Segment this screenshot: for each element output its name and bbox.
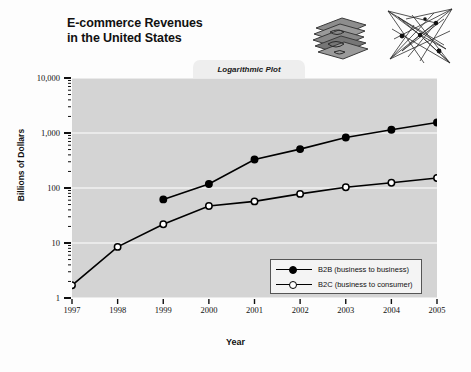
data-point — [251, 198, 257, 204]
data-point — [72, 282, 75, 288]
network-graph-icon — [384, 5, 456, 67]
x-tick-label: 2000 — [189, 305, 229, 315]
legend-swatch-b2c — [276, 279, 312, 290]
x-tick-label: 2001 — [235, 305, 275, 315]
legend: B2B (business to business) B2C (business… — [270, 259, 422, 294]
x-tick-label: 2004 — [371, 305, 411, 315]
data-point — [343, 184, 349, 190]
data-point — [434, 175, 437, 181]
data-point — [206, 181, 212, 187]
stack-of-money-icon — [308, 12, 374, 62]
y-tick-label: 10 — [18, 238, 60, 248]
data-point — [297, 191, 303, 197]
x-tick-label: 2003 — [326, 305, 366, 315]
logarithmic-plot-tab: Logarithmic Plot — [193, 60, 305, 79]
data-point — [251, 156, 257, 162]
legend-swatch-b2b — [276, 264, 312, 275]
x-tick-label: 1998 — [98, 305, 138, 315]
data-point — [206, 203, 212, 209]
data-point — [388, 180, 394, 186]
data-point — [388, 127, 394, 133]
data-point — [160, 221, 166, 227]
data-point — [343, 134, 349, 140]
legend-item-b2b: B2B (business to business) — [271, 262, 421, 277]
data-point — [160, 196, 166, 202]
legend-label-b2c: B2C (business to consumer) — [318, 280, 413, 289]
data-point — [114, 244, 120, 250]
filled-circle-icon — [289, 266, 297, 274]
page-title: E-commerce Revenues in the United States — [67, 16, 203, 46]
x-axis-title: Year — [0, 337, 471, 347]
open-circle-icon — [289, 281, 297, 289]
data-point — [297, 146, 303, 152]
chart-page: E-commerce Revenues in the United States — [0, 0, 471, 372]
y-tick-label: 10,000 — [18, 73, 60, 83]
x-tick-label: 1997 — [52, 305, 92, 315]
x-tick-label: 2005 — [417, 305, 457, 315]
data-point — [434, 119, 437, 125]
legend-item-b2c: B2C (business to consumer) — [271, 277, 421, 292]
logarithmic-plot-label: Logarithmic Plot — [217, 65, 280, 74]
y-tick-label: 1 — [18, 293, 60, 303]
legend-label-b2b: B2B (business to business) — [318, 265, 409, 274]
x-tick-label: 2002 — [280, 305, 320, 315]
y-axis-title: Billions of Dollars — [16, 110, 26, 220]
decorative-artwork — [300, 4, 468, 66]
x-tick-label: 1999 — [143, 305, 183, 315]
